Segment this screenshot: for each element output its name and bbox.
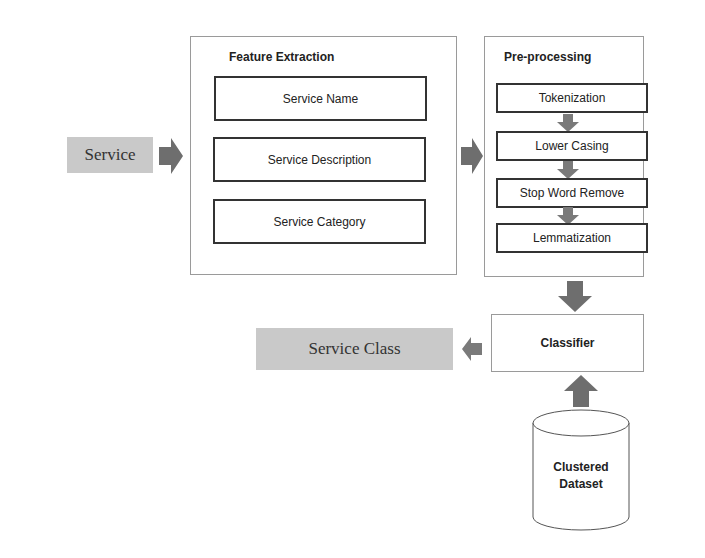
arrow-down-icon (557, 114, 579, 132)
step-stop-word-remove: Stop Word Remove (496, 178, 648, 208)
arrow-down-icon (558, 281, 592, 312)
dataset-label-line2: Dataset (532, 476, 630, 493)
service-label: Service (85, 145, 136, 165)
classifier-box: Classifier (491, 314, 644, 372)
classifier-label: Classifier (540, 336, 594, 350)
preprocessing-panel: Pre-processing Tokenization Lower Casing… (484, 36, 644, 277)
feature-extraction-panel: Feature Extraction Service Name Service … (190, 36, 457, 275)
preprocessing-title: Pre-processing (504, 50, 591, 64)
service-class-label: Service Class (308, 339, 400, 359)
step-lemmatization: Lemmatization (496, 223, 648, 253)
step-lower-casing: Lower Casing (496, 131, 648, 161)
clustered-dataset-cylinder: Clustered Dataset (532, 409, 630, 531)
arrow-up-icon (564, 375, 598, 407)
arrow-right-icon (159, 138, 183, 174)
feature-extraction-title: Feature Extraction (229, 50, 334, 64)
arrow-right-icon (461, 138, 483, 174)
step-tokenization: Tokenization (496, 83, 648, 113)
service-class-output: Service Class (256, 328, 453, 370)
arrow-down-icon (557, 161, 579, 179)
service-input-box: Service (67, 137, 153, 173)
feature-service-name: Service Name (214, 76, 427, 121)
feature-service-description: Service Description (213, 137, 426, 182)
arrow-left-icon (462, 337, 482, 361)
feature-service-category: Service Category (213, 199, 426, 244)
dataset-label-line1: Clustered (532, 459, 630, 476)
